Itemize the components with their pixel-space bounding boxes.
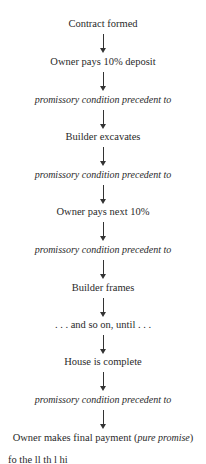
pure-promise-label: pure promise: [137, 432, 189, 443]
step-builder-frames: Builder frames: [0, 282, 206, 294]
step-owner-deposit: Owner pays 10% deposit: [0, 56, 206, 68]
step-builder-excavates: Builder excavates: [0, 131, 206, 143]
closing-paren: ): [190, 432, 194, 443]
step-final-payment: Owner makes final payment (pure promise): [0, 432, 206, 444]
step-owner-next: Owner pays next 10%: [0, 206, 206, 218]
condition-label: promissory condition precedent to: [0, 244, 206, 256]
condition-label: promissory condition precedent to: [0, 169, 206, 181]
final-payment-text: Owner makes final payment (: [13, 432, 138, 443]
step-contract-formed: Contract formed: [0, 18, 206, 30]
step-ellipsis: . . . and so on, until . . .: [0, 319, 206, 331]
step-house-complete: House is complete: [0, 356, 206, 368]
trailing-text-cutoff: fo the ll th l hi: [8, 454, 68, 464]
condition-label: promissory condition precedent to: [0, 94, 206, 106]
condition-label: promissory condition precedent to: [0, 394, 206, 406]
